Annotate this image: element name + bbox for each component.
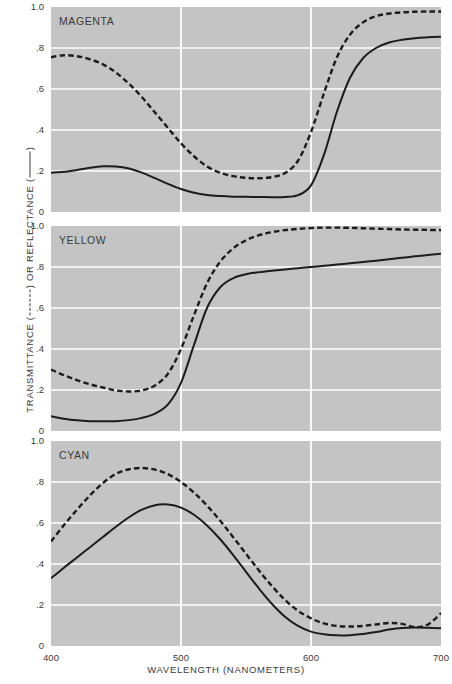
y-axis-tick-label: .4 <box>8 124 44 135</box>
y-axis-tick-label: .4 <box>8 558 44 569</box>
x-axis-tick-label: 500 <box>161 652 201 663</box>
plot-area-yellow <box>51 226 441 431</box>
chart-panel-magenta <box>51 7 441 212</box>
x-axis-tick-label: 700 <box>421 652 452 663</box>
y-axis-tick-label: 0 <box>8 640 44 651</box>
spectral-curves-figure: TRANSMITTANCE () OR REFLECTANCE () WAVEL… <box>0 0 452 684</box>
panel-title-magenta: MAGENTA <box>59 15 114 27</box>
x-axis-tick-label: 400 <box>31 652 71 663</box>
y-axis-tick-label: 0 <box>8 206 44 217</box>
y-axis-tick-label: .2 <box>8 165 44 176</box>
y-axis-tick-label: .4 <box>8 343 44 354</box>
plot-area-magenta <box>51 7 441 212</box>
y-axis-tick-label: .6 <box>8 83 44 94</box>
y-axis-tick-label: .2 <box>8 384 44 395</box>
x-axis-label: WAVELENGTH (NANOMETERS) <box>0 664 452 675</box>
y-axis-tick-label: .8 <box>8 261 44 272</box>
panel-title-cyan: CYAN <box>59 449 90 461</box>
y-axis-tick-label: 1.0 <box>8 435 44 446</box>
y-axis-tick-label: .8 <box>8 42 44 53</box>
y-axis-tick-label: 1.0 <box>8 220 44 231</box>
y-axis-tick-label: 1.0 <box>8 1 44 12</box>
plot-area-cyan <box>51 441 441 646</box>
y-axis-label-suffix: ) <box>24 146 35 150</box>
chart-panel-yellow <box>51 226 441 431</box>
y-axis-tick-label: .6 <box>8 302 44 313</box>
plot-background <box>51 7 441 212</box>
y-axis-tick-label: .6 <box>8 517 44 528</box>
y-axis-label: TRANSMITTANCE () OR REFLECTANCE () <box>24 115 35 445</box>
plot-background <box>51 441 441 646</box>
y-axis-tick-label: .2 <box>8 599 44 610</box>
plot-background <box>51 226 441 431</box>
panel-title-yellow: YELLOW <box>59 234 106 246</box>
x-axis-tick-label: 600 <box>291 652 331 663</box>
y-axis-tick-label: .8 <box>8 476 44 487</box>
y-axis-label-prefix: TRANSMITTANCE ( <box>24 316 35 412</box>
chart-panel-cyan <box>51 441 441 646</box>
